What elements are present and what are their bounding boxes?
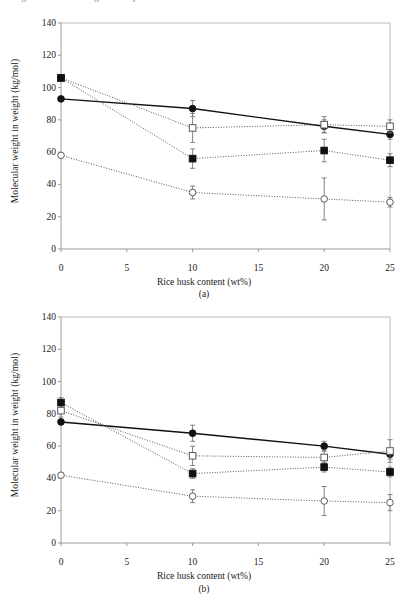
marker-open-square [387,123,394,130]
marker-filled-circle [58,95,65,102]
x-tick-label: 0 [46,557,76,567]
x-tick-label: 25 [375,557,405,567]
marker-filled-square [321,464,328,471]
x-tick-labels-b: 0510152025 [0,557,408,571]
series-open-circle-dotted [58,472,394,516]
marker-open-circle [189,493,196,500]
marker-open-circle [58,152,65,159]
marker-filled-square [189,155,196,162]
plot-area-a: Molecular weight in weight (kg/mol) 0204… [0,11,408,263]
clipped-caption-text: Figure: Molecular weight of composites v… [14,0,247,1]
series-open-square-dotted [58,75,394,143]
panel-label-b: (b) [0,584,408,594]
series-filled-square-dotted [58,74,394,168]
marker-open-square [387,448,394,455]
series-line [61,99,390,135]
marker-open-circle [321,498,328,505]
marker-filled-square [387,157,394,164]
marker-filled-circle [321,443,328,450]
x-tick-labels-a: 0510152025 [0,263,408,277]
marker-open-circle [387,199,394,206]
x-tick-label: 20 [309,557,339,567]
marker-filled-circle [189,105,196,112]
series-line [61,422,390,454]
marker-open-circle [387,499,394,506]
x-axis-title-b: Rice husk content (wt%) [0,571,408,581]
plot-area-b: Molecular weight in weight (kg/mol) 0204… [0,305,408,557]
x-tick-label: 10 [178,557,208,567]
marker-filled-square [58,74,65,81]
marker-open-square [321,121,328,128]
marker-open-square [58,407,65,414]
x-tick-label: 20 [309,263,339,273]
x-tick-label: 15 [243,263,273,273]
clipped-caption-fragment: Figure: Molecular weight of composites v… [0,0,408,11]
marker-filled-square [321,147,328,154]
x-tick-label: 5 [112,557,142,567]
x-tick-label: 0 [46,263,76,273]
marker-filled-square [189,470,196,477]
marker-filled-square [58,399,65,406]
series-line [61,411,390,458]
x-tick-label: 25 [375,263,405,273]
chart-svg-a [0,11,408,263]
marker-open-circle [321,196,328,203]
series-line [61,475,390,502]
marker-open-square [321,454,328,461]
panel-label-a: (a) [0,289,408,299]
x-tick-label: 10 [178,263,208,273]
marker-filled-circle [189,430,196,437]
marker-open-square [189,453,196,460]
marker-filled-circle [58,419,65,426]
series-open-circle-dotted [58,152,394,220]
series-line [61,78,390,160]
chart-panel-a: Molecular weight in weight (kg/mol) 0204… [0,11,408,295]
marker-open-circle [58,472,65,479]
chart-svg-b [0,305,408,557]
marker-open-circle [189,189,196,196]
series-filled-circle-solid [58,95,394,139]
series-filled-square-dotted [58,398,394,479]
x-tick-label: 5 [112,263,142,273]
series-line [61,403,390,474]
series-line [61,155,390,202]
chart-panel-b: Molecular weight in weight (kg/mol) 0204… [0,305,408,591]
marker-filled-square [387,469,394,476]
x-tick-label: 15 [243,557,273,567]
series-filled-circle-solid [58,419,394,460]
marker-open-square [189,125,196,132]
series-open-square-dotted [58,404,394,465]
x-axis-title-a: Rice husk content (wt%) [0,277,408,287]
